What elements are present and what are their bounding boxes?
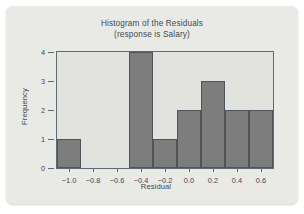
x-axis-title: Residual	[46, 182, 266, 191]
y-axis-tick-label: 4	[31, 48, 45, 57]
histogram-bar	[57, 139, 81, 168]
y-axis-tick	[48, 81, 54, 82]
x-axis-tick	[69, 168, 70, 172]
y-axis-tick	[48, 139, 54, 140]
y-axis-tick-label: 2	[31, 106, 45, 115]
plot-area: 01234−1.0−0.8−0.6−0.4−0.20.00.20.40.6	[56, 51, 274, 169]
chart-card: Histogram of the Residuals (response is …	[6, 6, 298, 204]
y-axis-tick-label: 1	[31, 135, 45, 144]
chart-subtitle: (response is Salary)	[6, 29, 298, 40]
histogram-bar	[201, 81, 225, 168]
x-axis-tick	[189, 168, 190, 172]
histogram-bar	[225, 110, 249, 168]
x-axis-tick	[141, 168, 142, 172]
y-axis-tick	[48, 168, 54, 169]
chart-title-block: Histogram of the Residuals (response is …	[6, 18, 298, 40]
histogram-bar	[177, 110, 201, 168]
y-axis-title: Frequency	[20, 72, 29, 142]
x-axis-tick	[93, 168, 94, 172]
histogram-screenshot: Histogram of the Residuals (response is …	[0, 0, 304, 214]
bars-container	[57, 52, 273, 168]
x-axis-tick	[261, 168, 262, 172]
x-axis-tick	[117, 168, 118, 172]
x-axis-tick	[213, 168, 214, 172]
x-axis-tick	[237, 168, 238, 172]
y-axis-tick	[48, 110, 54, 111]
y-axis-tick-label: 0	[31, 164, 45, 173]
histogram-bar	[129, 52, 153, 168]
histogram-bar	[153, 139, 177, 168]
histogram-bar	[249, 110, 273, 168]
chart-title: Histogram of the Residuals	[6, 18, 298, 29]
y-axis-tick-label: 3	[31, 77, 45, 86]
y-axis-tick	[48, 52, 54, 53]
x-axis-tick	[165, 168, 166, 172]
